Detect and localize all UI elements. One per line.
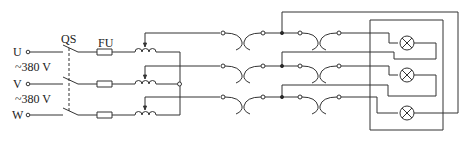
fuses-fu	[97, 49, 135, 118]
terminal-label-w: W	[12, 109, 23, 121]
junctions	[265, 12, 458, 113]
switch-label-qs: QS	[61, 33, 76, 45]
switch-qs	[61, 45, 97, 115]
connectors-second	[298, 31, 398, 114]
voltage-label-uv: ~380 V	[15, 61, 51, 73]
autotransformers	[135, 33, 220, 115]
terminal-label-u: U	[13, 46, 22, 58]
voltage-label-vw: ~380 V	[15, 93, 51, 105]
circuit-diagram: U V W ~380 V ~380 V QS FU	[0, 0, 470, 141]
connectors-first	[221, 31, 265, 114]
terminal-label-v: V	[13, 78, 22, 90]
fuse-label-fu: FU	[98, 37, 113, 49]
schematic-svg	[0, 0, 470, 141]
lamps	[400, 36, 424, 120]
